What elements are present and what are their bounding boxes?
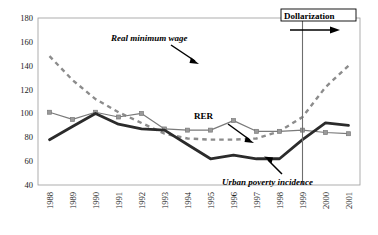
y-axis-tick-labels: 406080100120140160180 xyxy=(20,13,33,190)
y-tick-160: 160 xyxy=(20,37,33,47)
economic-indicators-line-chart: 406080100120140160180 198819891990199119… xyxy=(0,0,378,235)
y-tick-40: 40 xyxy=(25,180,34,190)
series-marker xyxy=(48,110,52,114)
series-marker xyxy=(347,132,351,136)
series-marker xyxy=(71,117,75,121)
series-marker xyxy=(140,111,144,115)
y-tick-100: 100 xyxy=(20,108,33,118)
real-minimum-wage-label: Real minimum wage xyxy=(110,33,188,43)
urban-poverty-incidence-label: Urban poverty incidence xyxy=(222,177,313,187)
x-tick-2000: 2000 xyxy=(321,192,331,209)
x-axis-tick-labels: 1988198919901991199219931994199519961997… xyxy=(45,191,354,209)
chart-container: 406080100120140160180 198819891990199119… xyxy=(0,0,378,235)
y-tick-140: 140 xyxy=(20,61,33,71)
series-marker xyxy=(232,119,236,123)
x-tick-1993: 1993 xyxy=(160,192,170,209)
series-marker xyxy=(324,131,328,135)
y-tick-80: 80 xyxy=(25,132,34,142)
rer-label: RER xyxy=(194,111,214,121)
y-tick-180: 180 xyxy=(20,13,33,23)
x-tick-1996: 1996 xyxy=(229,192,239,209)
x-tick-1988: 1988 xyxy=(45,192,55,209)
x-tick-1992: 1992 xyxy=(137,192,147,209)
x-tick-1989: 1989 xyxy=(68,192,78,209)
series-marker xyxy=(209,128,213,132)
series-marker xyxy=(117,115,121,119)
x-tick-1990: 1990 xyxy=(91,192,101,209)
x-tick-1994: 1994 xyxy=(183,191,193,209)
y-tick-60: 60 xyxy=(25,156,34,166)
dollarization-label: Dollarization xyxy=(284,11,335,21)
x-tick-1997: 1997 xyxy=(252,192,262,209)
y-tick-120: 120 xyxy=(20,85,33,95)
plot-area-frame xyxy=(38,18,360,185)
series-marker xyxy=(186,128,190,132)
x-tick-1991: 1991 xyxy=(114,192,124,209)
x-tick-2001: 2001 xyxy=(344,192,354,209)
series-marker xyxy=(278,129,282,133)
x-tick-1999: 1999 xyxy=(298,192,308,209)
x-tick-1995: 1995 xyxy=(206,192,216,209)
x-tick-1998: 1998 xyxy=(275,192,285,209)
series-marker xyxy=(255,129,259,133)
